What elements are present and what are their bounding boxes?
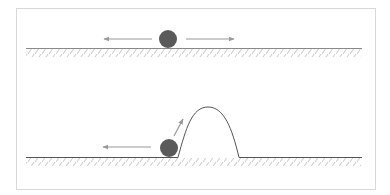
panel-ground-with-hump (26, 107, 362, 166)
ball (159, 30, 177, 48)
ground-with-hump-line (26, 107, 362, 158)
ground-hatch (26, 158, 361, 166)
ground-hatch (26, 49, 361, 57)
physics-diagram (0, 0, 390, 195)
arrow-up-right-icon (174, 119, 183, 136)
ball (160, 139, 178, 157)
panel-flat-ground (26, 30, 362, 57)
